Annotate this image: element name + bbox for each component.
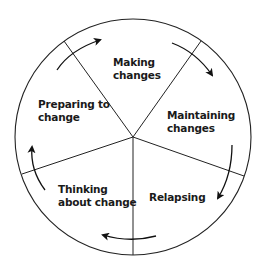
stage-label-line: Maintaining — [167, 109, 235, 122]
arrow-icon — [57, 40, 100, 70]
arrow-icon — [172, 43, 212, 75]
stage-label-line: Thinking — [58, 183, 136, 196]
stage-making-changes: Making changes — [113, 56, 161, 82]
stage-relapsing: Relapsing — [149, 191, 205, 204]
stage-label-line: Preparing to — [38, 98, 110, 111]
stage-thinking-about-change: Thinking about change — [58, 183, 136, 209]
arrow-icon — [103, 235, 156, 239]
stage-label-line: Making — [113, 56, 161, 69]
stage-label-line: changes — [167, 122, 235, 135]
stage-label-line: about change — [58, 196, 136, 209]
cycle-wheel — [0, 0, 264, 270]
stage-label-line: changes — [113, 69, 161, 82]
stage-label-line: change — [38, 111, 110, 124]
stage-preparing-to-change: Preparing to change — [38, 98, 110, 124]
stage-maintaining-changes: Maintaining changes — [167, 109, 235, 135]
stage-label-line: Relapsing — [149, 191, 205, 204]
